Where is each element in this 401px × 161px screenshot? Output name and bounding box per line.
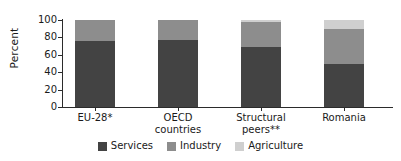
y-tick-label: 20 <box>0 85 57 95</box>
bar-eu-28- <box>75 20 115 107</box>
bar-romania <box>324 20 364 107</box>
bar-segment-services <box>75 41 115 107</box>
y-tick-mark <box>58 55 62 56</box>
bar-segment-services <box>241 47 281 107</box>
category-label: Romania <box>289 112 399 124</box>
bar-segment-industry <box>324 29 364 65</box>
legend-label: Services <box>111 141 153 151</box>
x-tick-mark <box>344 107 345 111</box>
legend-label: Agriculture <box>248 141 303 151</box>
legend-swatch-icon <box>235 142 244 151</box>
y-tick-mark <box>58 90 62 91</box>
legend-item-agriculture: Agriculture <box>235 141 303 151</box>
x-tick-mark <box>178 107 179 111</box>
category-label-line: peers** <box>206 124 316 136</box>
legend-label: Industry <box>180 141 221 151</box>
legend-item-services: Services <box>98 141 153 151</box>
y-tick-label: 60 <box>0 50 57 60</box>
chart-legend: ServicesIndustryAgriculture <box>0 141 401 151</box>
bar-segment-services <box>158 40 198 107</box>
bar-segment-industry <box>75 20 115 41</box>
y-tick-label: 100 <box>0 15 57 25</box>
x-tick-mark <box>261 107 262 111</box>
bar-segment-services <box>324 64 364 107</box>
y-tick-label: 40 <box>0 67 57 77</box>
category-label-line: Romania <box>289 112 399 124</box>
y-tick-mark <box>58 107 62 108</box>
stacked-bar-chart: Percent 100806040200 EU-28*OECDcountries… <box>0 0 401 161</box>
y-tick-mark <box>58 72 62 73</box>
legend-swatch-icon <box>167 142 176 151</box>
y-tick-mark <box>58 20 62 21</box>
bar-oecd-countries <box>158 20 198 107</box>
y-tick-label: 0 <box>0 102 57 112</box>
legend-item-industry: Industry <box>167 141 221 151</box>
bar-segment-agriculture <box>324 20 364 29</box>
bar-segment-industry <box>241 22 281 47</box>
legend-swatch-icon <box>98 142 107 151</box>
bar-segment-industry <box>158 20 198 40</box>
x-tick-mark <box>95 107 96 111</box>
y-tick-label: 80 <box>0 32 57 42</box>
y-tick-mark <box>58 37 62 38</box>
bar-structural-peers- <box>241 20 281 107</box>
y-axis-line <box>62 19 63 108</box>
